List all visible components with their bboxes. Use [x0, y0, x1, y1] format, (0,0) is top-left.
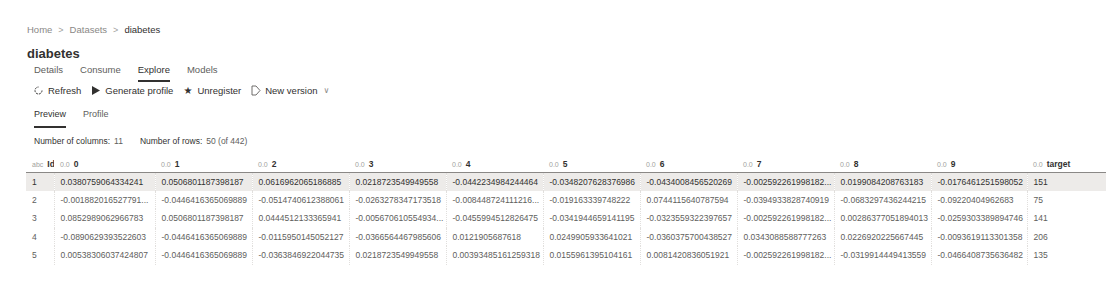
column-name: 9	[951, 159, 956, 169]
table-row[interactable]: 2-0.001882016527791...-0.044641636506988…	[26, 191, 1106, 210]
table-cell: -0.0446416365069889	[155, 228, 252, 247]
table-cell: -0.0446416365069889	[155, 246, 252, 265]
table-cell: -0.0683297436244215	[834, 191, 931, 210]
column-header-9[interactable]: 0.09	[931, 156, 1027, 172]
column-header-id[interactable]: abcId	[26, 156, 54, 172]
table-cell: 0.0249905933641021	[543, 228, 640, 247]
column-header-4[interactable]: 0.04	[446, 156, 543, 172]
column-header-7[interactable]: 0.07	[737, 156, 834, 172]
numeric-type-icon: 0.0	[1033, 161, 1043, 168]
rows-count-value: 50 (of 442)	[206, 136, 247, 146]
column-header-target[interactable]: 0.0target	[1027, 156, 1106, 172]
table-cell: -0.09220404962683	[931, 191, 1027, 210]
rows-count-label: Number of rows:	[140, 136, 202, 146]
unregister-label: Unregister	[197, 85, 241, 96]
table-body: 10.03807590643342410.05068011873981870.0…	[26, 172, 1106, 265]
new-version-button[interactable]: New version ∨	[250, 85, 329, 96]
tab-models[interactable]: Models	[187, 64, 218, 82]
table-cell: 0.0226920225667445	[834, 228, 931, 247]
play-icon	[90, 85, 101, 96]
table-cell: 0.0616962065186885	[252, 172, 349, 191]
column-header-2[interactable]: 0.02	[252, 156, 349, 172]
table-cell: 0.0081420836051921	[640, 246, 737, 265]
table-cell: 0.0852989062966783	[54, 209, 155, 228]
star-icon: ★	[182, 85, 193, 96]
tab-explore[interactable]: Explore	[138, 64, 170, 82]
table-cell: 141	[1027, 209, 1106, 228]
column-name: 8	[854, 159, 859, 169]
table-cell: -0.001882016527791...	[54, 191, 155, 210]
rows-count: Number of rows:50 (of 442)	[140, 136, 247, 146]
table-cell: -0.0455994512826475	[446, 209, 543, 228]
breadcrumb-datasets[interactable]: Datasets	[70, 24, 108, 35]
column-name: 4	[466, 159, 471, 169]
table-cell: 0.0506801187398187	[155, 209, 252, 228]
table-cell: -0.0115950145052127	[252, 228, 349, 247]
preview-table: abcId0.000.010.020.030.040.050.060.070.0…	[26, 156, 1106, 265]
columns-count-value: 11	[114, 136, 123, 146]
column-header-5[interactable]: 0.05	[543, 156, 640, 172]
page-title: diabetes	[27, 46, 80, 61]
tab-profile[interactable]: Profile	[83, 109, 109, 128]
refresh-label: Refresh	[48, 85, 81, 96]
table-cell: -0.0394933828740919	[737, 191, 834, 210]
table-cell: -0.0366564467985606	[349, 228, 446, 247]
table-cell: -0.008448724111216...	[446, 191, 543, 210]
row-id-cell: 4	[26, 228, 54, 247]
columns-count: Number of columns:11	[34, 136, 123, 146]
table-cell: -0.0514740612388061	[252, 191, 349, 210]
table-cell: -0.002592261998182...	[737, 172, 834, 191]
table-cell: -0.0890629393522603	[54, 228, 155, 247]
numeric-type-icon: 0.0	[549, 161, 559, 168]
table-cell: 0.0506801187398187	[155, 172, 252, 191]
numeric-type-icon: 0.0	[452, 161, 462, 168]
table-cell: -0.002592261998182...	[737, 246, 834, 265]
numeric-type-icon: 0.0	[60, 161, 70, 168]
refresh-button[interactable]: Refresh	[33, 85, 81, 96]
table-row[interactable]: 30.08529890629667830.05068011873981870.0…	[26, 209, 1106, 228]
table-cell: -0.0263278347173518	[349, 191, 446, 210]
numeric-type-icon: 0.0	[840, 161, 850, 168]
table-cell: -0.0341944659141195	[543, 209, 640, 228]
column-header-0[interactable]: 0.00	[54, 156, 155, 172]
new-version-icon	[250, 85, 261, 96]
table-cell: 0.00393485161259318	[446, 246, 543, 265]
explore-subtabs: Preview Profile	[34, 109, 109, 128]
numeric-type-icon: 0.0	[355, 161, 365, 168]
column-header-1[interactable]: 0.01	[155, 156, 252, 172]
numeric-type-icon: 0.0	[258, 161, 268, 168]
table-cell: 0.00286377051894013	[834, 209, 931, 228]
table-cell: -0.0360375700438527	[640, 228, 737, 247]
column-name: 3	[369, 159, 374, 169]
unregister-button[interactable]: ★ Unregister	[182, 85, 241, 96]
toolbar: Refresh Generate profile ★ Unregister Ne…	[33, 85, 338, 96]
column-header-8[interactable]: 0.08	[834, 156, 931, 172]
generate-profile-button[interactable]: Generate profile	[90, 85, 173, 96]
column-name: Id	[47, 159, 54, 169]
row-id-cell: 1	[26, 172, 54, 191]
column-header-3[interactable]: 0.03	[349, 156, 446, 172]
table-cell: 0.0199084208763183	[834, 172, 931, 191]
row-id-cell: 5	[26, 246, 54, 265]
breadcrumb-home[interactable]: Home	[27, 24, 52, 35]
column-header-6[interactable]: 0.06	[640, 156, 737, 172]
table-cell: -0.0259303389894746	[931, 209, 1027, 228]
table-cell: -0.0348207628376986	[543, 172, 640, 191]
table-cell: -0.019163339748222	[543, 191, 640, 210]
refresh-icon	[33, 85, 44, 96]
table-cell: 0.0121905687618	[446, 228, 543, 247]
tab-details[interactable]: Details	[34, 64, 63, 82]
text-type-icon: abc	[32, 161, 43, 168]
table-cell: -0.0323559322397657	[640, 209, 737, 228]
table-row[interactable]: 50.00538306037424807-0.0446416365069889-…	[26, 246, 1106, 265]
breadcrumb-separator: >	[58, 25, 63, 35]
table-cell: -0.0442234984244464	[446, 172, 543, 191]
table-cell: 0.0343088588777263	[737, 228, 834, 247]
tab-preview[interactable]: Preview	[34, 109, 66, 128]
table-cell: 0.0155961395104161	[543, 246, 640, 265]
columns-count-label: Number of columns:	[34, 136, 110, 146]
table-row[interactable]: 10.03807590643342410.05068011873981870.0…	[26, 172, 1106, 191]
table-cell: 0.0218723549949558	[349, 172, 446, 191]
table-row[interactable]: 4-0.0890629393522603-0.0446416365069889-…	[26, 228, 1106, 247]
tab-consume[interactable]: Consume	[80, 64, 121, 82]
